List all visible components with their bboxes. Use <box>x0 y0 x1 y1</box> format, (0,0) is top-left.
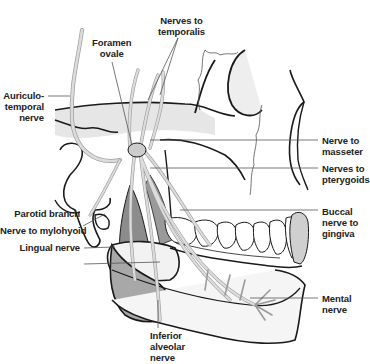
label-line: Inferior <box>150 330 185 341</box>
label-line: nerve to <box>322 217 358 228</box>
label-inferior-alveolar-nerve: Inferior alveolar nerve <box>150 330 185 363</box>
label-line: Nerves to <box>158 15 205 26</box>
label-line: Mental <box>322 293 352 304</box>
label-parotid-branch: Parotid branch <box>2 208 80 219</box>
label-line: Nerves to <box>322 163 370 174</box>
label-nerves-to-temporalis: Nerves to temporalis <box>158 15 205 37</box>
label-auriculotemporal-nerve: Auriculo- temporal nerve <box>2 90 44 123</box>
orbit-outline <box>228 50 262 115</box>
label-foramen-ovale: Foramen ovale <box>92 37 131 59</box>
label-nerves-to-pterygoids: Nerves to pterygoids <box>322 163 370 185</box>
label-line: Buccal <box>322 206 358 217</box>
label-nerve-to-masseter: Nerve to masseter <box>322 135 363 157</box>
label-line: ovale <box>92 48 131 59</box>
label-line: nerve <box>150 352 185 363</box>
label-line: gingiva <box>322 228 358 239</box>
zygomatic-arch <box>55 102 215 138</box>
label-line: Foramen <box>92 37 131 48</box>
label-line: temporalis <box>158 26 205 37</box>
label-line: alveolar <box>150 341 185 352</box>
label-line: nerve <box>2 112 44 123</box>
label-line: Auriculo- <box>2 90 44 101</box>
label-lingual-nerve: Lingual nerve <box>2 242 80 253</box>
label-line: temporal <box>2 101 44 112</box>
label-line: Nerve to <box>322 135 363 146</box>
label-line: nerve <box>322 304 352 315</box>
label-line: masseter <box>322 146 363 157</box>
label-mental-nerve: Mental nerve <box>322 293 352 315</box>
label-line: pterygoids <box>322 174 370 185</box>
label-buccal-nerve-to-gingiva: Buccal nerve to gingiva <box>322 206 358 239</box>
label-nerve-to-mylohyoid: Nerve to mylohyoid <box>0 225 82 236</box>
